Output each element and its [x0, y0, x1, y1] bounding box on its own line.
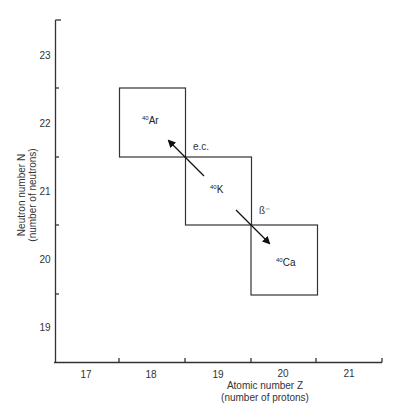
- ec-label: e.c.: [193, 141, 209, 152]
- beta-minus-label: ß⁻: [259, 205, 270, 216]
- decay-diagram: 23 22 21 20 19 17 18 19 20 21 Atomic num…: [0, 0, 400, 417]
- x-tick-18: 18: [145, 369, 157, 380]
- svg-text:Atomic number Z: Atomic number Z: [227, 380, 303, 391]
- y-axis-title: Neutron number N (number of neutrons): [16, 148, 38, 241]
- x-tick-19: 19: [212, 369, 224, 380]
- x-axis-label: Atomic number Z: [227, 380, 303, 391]
- y-tick-23: 23: [39, 50, 51, 61]
- nuclide-label-ar40: 40Ar: [142, 115, 159, 126]
- x-tick-17: 17: [80, 369, 92, 380]
- y-axis-sublabel: (number of neutrons): [27, 148, 38, 241]
- x-axis-sublabel: (number of protons): [221, 392, 309, 403]
- x-tick-21: 21: [343, 368, 355, 379]
- nuclide-label-ca40: 40Ca: [276, 257, 296, 268]
- y-axis: [56, 20, 62, 362]
- y-tick-19: 19: [39, 322, 51, 333]
- y-tick-labels: 23 22 21 20 19: [39, 50, 51, 333]
- x-tick-20: 20: [277, 368, 289, 379]
- y-tick-22: 22: [39, 118, 51, 129]
- x-tick-labels: 17 18 19 20 21: [80, 368, 355, 380]
- y-tick-21: 21: [39, 186, 51, 197]
- y-tick-20: 20: [39, 254, 51, 265]
- x-axis-title: Atomic number Z (number of protons): [221, 380, 309, 403]
- x-axis: [54, 358, 382, 363]
- nuclide-label-k40: 40K: [210, 184, 224, 195]
- y-axis-label: Neutron number N: [16, 154, 27, 236]
